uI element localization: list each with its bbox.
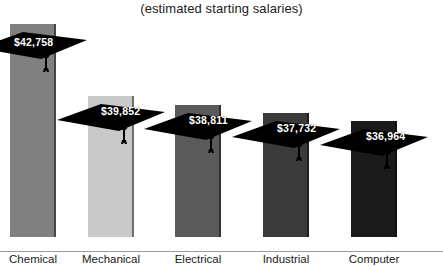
- salary-bar-chart: (estimated starting salaries) $42,758Che…: [0, 0, 443, 267]
- bar-value-label: $36,964: [366, 130, 405, 142]
- bar: [88, 96, 134, 237]
- category-label: Chemical: [0, 253, 74, 265]
- category-label: Industrial: [245, 253, 327, 265]
- category-label: Electrical: [157, 253, 239, 265]
- x-axis-baseline: [0, 251, 443, 252]
- bar: [10, 24, 56, 237]
- plot-area: [0, 0, 443, 252]
- bar-group: [88, 96, 134, 237]
- category-label: Computer: [333, 253, 415, 265]
- bar-value-label: $37,732: [277, 122, 316, 134]
- bar-value-label: $39,852: [101, 105, 140, 117]
- bar-value-label: $42,758: [14, 36, 53, 48]
- category-label: Mechanical: [70, 253, 152, 265]
- bar-value-label: $38,811: [189, 114, 228, 126]
- bar-group: [10, 24, 56, 237]
